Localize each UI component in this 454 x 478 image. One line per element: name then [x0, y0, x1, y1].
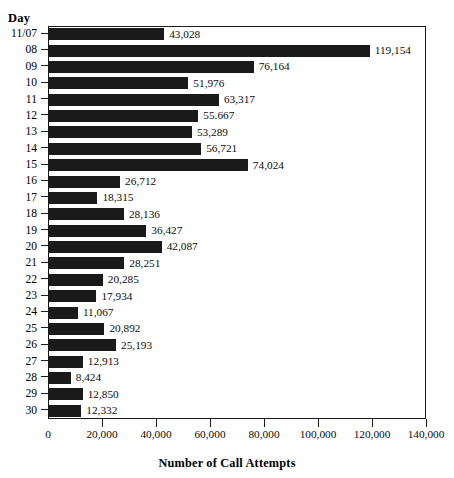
bar	[48, 94, 219, 106]
y-axis-tick-mark	[41, 213, 48, 214]
bar-value-label: 42,087	[167, 238, 198, 254]
y-axis-tick-label: 26	[25, 337, 37, 353]
y-axis-tick-mark	[41, 327, 48, 328]
bar-value-label: 36,427	[151, 222, 182, 238]
bar-row: 74,024	[48, 157, 426, 173]
y-axis-tick-label: 09	[25, 59, 37, 75]
bar	[48, 225, 146, 237]
x-axis-ticks: 020,00040,00060,00080,000100,000120,0001…	[48, 419, 426, 429]
bar	[48, 257, 124, 269]
x-axis-tick-label: 80,000	[248, 428, 279, 440]
y-axis-tick-mark	[41, 65, 48, 66]
bar-row: 26,712	[48, 173, 426, 189]
bar-value-label: 17,934	[101, 288, 132, 304]
y-axis-tick-label: 29	[25, 386, 37, 402]
bar	[48, 126, 192, 138]
bar-row: 20,285	[48, 272, 426, 288]
bar-value-label: 119,154	[375, 42, 411, 58]
bar-value-label: 63,317	[224, 91, 255, 107]
bar	[48, 323, 104, 335]
y-axis-tick-label: 10	[25, 75, 37, 91]
bar-value-label: 74,024	[253, 157, 284, 173]
bar-row: 12,913	[48, 354, 426, 370]
bar	[48, 208, 124, 220]
bar	[48, 45, 370, 57]
y-axis-tick-mark	[41, 82, 48, 83]
x-axis-tick-mark	[102, 419, 103, 427]
bar-value-label: 25,193	[121, 337, 152, 353]
bar	[48, 339, 116, 351]
y-axis-tick-label: 08	[25, 42, 37, 58]
y-axis-tick-mark	[41, 295, 48, 296]
bar-row: 63,317	[48, 92, 426, 108]
bar-value-label: 28,136	[129, 206, 160, 222]
y-axis-tick-mark	[41, 262, 48, 263]
y-axis-tick-label: 24	[25, 304, 37, 320]
y-axis-header: Day	[8, 11, 30, 26]
x-axis-tick-label: 20,000	[86, 428, 117, 440]
bar	[48, 372, 71, 384]
y-axis-tick-mark	[41, 131, 48, 132]
bar	[48, 274, 103, 286]
bar-value-label: 20,892	[109, 320, 140, 336]
y-axis-tick-mark	[41, 229, 48, 230]
bar-row: 53,289	[48, 124, 426, 140]
y-axis-tick-label: 11/07	[11, 26, 37, 42]
bar	[48, 159, 248, 171]
x-axis-tick-label: 60,000	[194, 428, 225, 440]
y-axis-tick-label: 12	[25, 108, 37, 124]
bar-value-label: 12,332	[86, 402, 117, 418]
bar	[48, 405, 81, 417]
bar-row: 28,251	[48, 255, 426, 271]
x-axis-tick-label: 140,000	[408, 428, 445, 440]
x-axis-tick-mark	[210, 419, 211, 427]
bar-value-label: 12,913	[88, 353, 119, 369]
y-axis-tick-label: 20	[25, 239, 37, 255]
y-axis-tick-label: 16	[25, 173, 37, 189]
bar-value-label: 11,067	[83, 304, 114, 320]
y-axis-tick-label: 30	[25, 403, 37, 419]
bar-row: 43,028	[48, 26, 426, 42]
y-axis-tick-label: 17	[25, 190, 37, 206]
y-axis-tick-mark	[41, 360, 48, 361]
bar	[48, 307, 78, 319]
y-axis-tick-mark	[41, 114, 48, 115]
bar-value-label: 20,285	[108, 271, 139, 287]
y-axis-tick-mark	[41, 164, 48, 165]
x-axis-tick-label: 100,000	[300, 428, 337, 440]
bar-value-label: 51,976	[193, 75, 224, 91]
bar	[48, 110, 198, 122]
bar	[48, 28, 164, 40]
bars-layer: 43,028119,15476,16451,97663,31755.66753,…	[48, 26, 426, 419]
bar-value-label: 26,712	[125, 173, 156, 189]
bar-row: 12,850	[48, 386, 426, 402]
bar-row: 56,721	[48, 141, 426, 157]
bar-row: 17,934	[48, 288, 426, 304]
bar	[48, 77, 188, 89]
y-axis-tick-label: 14	[25, 141, 37, 157]
bar	[48, 192, 97, 204]
y-axis-labels: 11/0708091011121314151617181920212223242…	[0, 26, 48, 419]
bar-value-label: 8,424	[76, 369, 101, 385]
bar	[48, 388, 83, 400]
bar-row: 28,136	[48, 206, 426, 222]
bar	[48, 61, 254, 73]
y-axis-tick-label: 22	[25, 272, 37, 288]
bar-row: 25,193	[48, 337, 426, 353]
bar	[48, 143, 201, 155]
y-axis-tick-mark	[41, 245, 48, 246]
bar-row: 12,332	[48, 403, 426, 419]
x-axis-tick-label: 40,000	[140, 428, 171, 440]
bar-row: 18,315	[48, 190, 426, 206]
bar	[48, 241, 162, 253]
y-axis-tick-mark	[41, 180, 48, 181]
bar-value-label: 56,721	[206, 140, 237, 156]
x-axis-tick-mark	[426, 419, 427, 427]
y-axis-tick-mark	[41, 196, 48, 197]
y-axis-tick-label: 21	[25, 255, 37, 271]
y-axis-tick-label: 27	[25, 354, 37, 370]
y-axis-tick-label: 19	[25, 223, 37, 239]
y-axis-tick-mark	[41, 376, 48, 377]
y-axis-tick-label: 13	[25, 124, 37, 140]
x-axis-title: Number of Call Attempts	[0, 456, 454, 471]
